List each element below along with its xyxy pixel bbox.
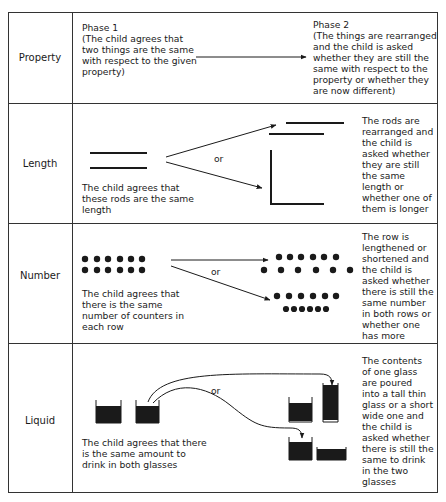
branch-arrows	[171, 260, 270, 300]
counters-shortened	[274, 293, 339, 312]
branch-arrows	[166, 125, 276, 188]
glass-right	[136, 400, 159, 423]
counters-lengthened	[261, 254, 353, 273]
rearranged-rods-l-shape	[271, 150, 324, 204]
counters-equal-rows	[82, 256, 145, 273]
glass-original-2	[289, 437, 312, 460]
equal-rods	[90, 153, 147, 168]
glass-original	[289, 397, 312, 422]
rearranged-rods-offset	[269, 123, 344, 134]
glass-tall-thin	[323, 383, 338, 422]
diagram-artwork	[0, 0, 446, 502]
glass-short-wide	[317, 447, 346, 460]
glass-left	[96, 400, 121, 423]
